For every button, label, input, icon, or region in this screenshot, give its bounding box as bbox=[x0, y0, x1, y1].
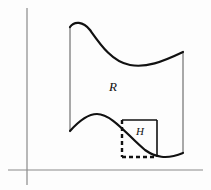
region-top-curve bbox=[70, 23, 183, 66]
region-label-r: R bbox=[108, 79, 117, 94]
figure-canvas: R H bbox=[0, 0, 211, 190]
region-r-outline bbox=[70, 23, 183, 157]
coordinate-axes bbox=[8, 8, 203, 185]
rectangle-label-h: H bbox=[135, 125, 145, 137]
math-figure: R H bbox=[0, 0, 211, 190]
